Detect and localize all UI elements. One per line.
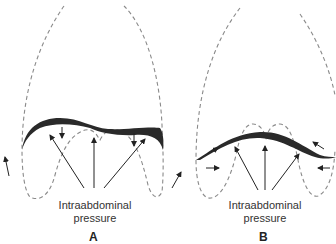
panel-a-caption-line2: pressure [55, 212, 135, 225]
panel-a-caption-line1: Intraabdominal [55, 199, 135, 212]
panel-b-caption: Intraabdominal pressure [225, 199, 305, 225]
panel-b-caption-line1: Intraabdominal [225, 199, 305, 212]
panel-a-diaphragm [22, 118, 163, 150]
panel-b-pressure-arrow-right [272, 154, 299, 190]
diaphragm-diagram: Intraabdominal pressure Intraabdominal p… [0, 0, 336, 244]
panel-b-arrow-upper-right [313, 142, 324, 149]
panel-b-pressure-arrow-left [235, 147, 258, 190]
panel-b-diaphragm [196, 132, 336, 160]
panel-a-thorax-outline [22, 6, 163, 199]
panel-a-label: A [89, 230, 98, 244]
panel-b-caption-line2: pressure [225, 212, 305, 225]
panel-b-label: B [259, 230, 268, 244]
panel-a-pressure-arrow-right [104, 139, 145, 188]
panel-a-pressure-arrow-left [50, 135, 84, 188]
panel-b-arrow-upper-left [207, 148, 218, 154]
panel-a-outward-arrow-left [5, 157, 9, 176]
panel-a-outward-arrow-right [172, 172, 181, 188]
panel-a-caption: Intraabdominal pressure [55, 199, 135, 225]
